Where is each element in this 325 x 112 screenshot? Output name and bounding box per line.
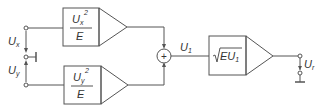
uy-arrow-icon xyxy=(24,60,28,65)
input-terminal-bottom xyxy=(24,83,28,87)
ux-label: Ux xyxy=(8,35,20,48)
circuit-diagram: Ux Uy Ux 2 E Uy 2 E + U1 EU1 xyxy=(0,0,325,112)
output-terminal-bottom xyxy=(298,71,302,75)
uy-label: Uy xyxy=(8,64,20,78)
input-terminal-top xyxy=(24,26,28,30)
plus-icon: + xyxy=(161,51,167,62)
input-terminals xyxy=(24,26,36,87)
sqrt-expression: EU1 xyxy=(220,50,239,63)
output-terminal-top xyxy=(298,54,302,58)
ur-arrow-icon xyxy=(298,66,302,70)
wire-y-to-summer xyxy=(128,64,164,85)
square-y-numerator: Uy xyxy=(73,71,85,85)
input-terminal-middle xyxy=(24,55,28,59)
wire-x-to-summer xyxy=(127,27,164,47)
square-x-numerator: Ux xyxy=(72,13,84,26)
arrow-into-summer-top-icon xyxy=(162,44,166,49)
amplifier-icon-x xyxy=(99,8,127,46)
square-block-x: Ux 2 E xyxy=(63,8,127,46)
square-x-exponent: 2 xyxy=(83,9,88,16)
square-y-denominator: E xyxy=(77,88,85,100)
amplifier-icon-sqrt xyxy=(246,36,273,75)
ur-label: Ur xyxy=(304,58,315,71)
ux-arrow-icon xyxy=(24,48,28,53)
amplifier-icon-y xyxy=(101,66,128,104)
square-x-denominator: E xyxy=(76,30,84,42)
square-y-exponent: 2 xyxy=(84,67,89,74)
u1-label: U1 xyxy=(180,41,192,54)
summing-junction: + xyxy=(157,49,171,63)
sqrt-block: EU1 xyxy=(209,36,273,75)
square-block-y: Uy 2 E xyxy=(64,66,128,104)
